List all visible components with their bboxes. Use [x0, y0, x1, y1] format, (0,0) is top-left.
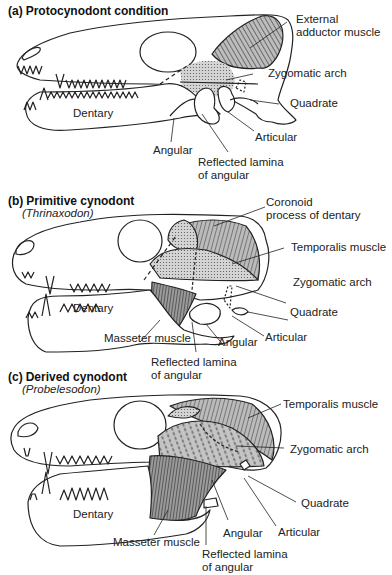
label-temporalis-c: Temporalis muscle — [283, 398, 378, 411]
panel-b-subtitle: (Thrinaxodon) — [22, 207, 94, 220]
panel-c-letter: (c) — [8, 370, 23, 384]
label-dentary-a: Dentary — [73, 107, 113, 120]
label-line: of angular — [151, 369, 237, 382]
label-dentary-c: Dentary — [73, 508, 113, 521]
label-angular-a: Angular — [153, 144, 193, 157]
label-temporalis-b: Temporalis muscle — [291, 241, 386, 254]
panel-a-letter: (a) — [8, 4, 23, 18]
label-line: External — [296, 13, 380, 26]
label-articular-c: Articular — [278, 526, 320, 539]
panel-c-title-text: Derived cynodont — [26, 370, 127, 384]
label-reflected-lamina-a: Reflected lamina of angular — [198, 156, 284, 182]
label-masseter-b: Masseter muscle — [104, 332, 191, 345]
label-line: Reflected lamina — [202, 548, 288, 561]
label-reflected-lamina-b: Reflected lamina of angular — [151, 356, 237, 382]
label-line: of angular — [198, 169, 284, 182]
panel-b-title-text: Primitive cynodont — [26, 194, 134, 208]
label-masseter-c: Masseter muscle — [113, 536, 200, 549]
label-line: Coronoid — [266, 196, 361, 209]
panel-c-drawing — [11, 395, 296, 546]
panel-b-letter: (b) — [8, 194, 23, 208]
label-dentary-b: Dentary — [73, 302, 113, 315]
label-zygomatic-arch-c: Zygomatic arch — [290, 443, 369, 456]
label-reflected-lamina-c: Reflected lamina of angular — [202, 548, 288, 574]
label-quadrate-b: Quadrate — [290, 306, 338, 319]
label-line: of angular — [202, 561, 288, 574]
label-quadrate-c: Quadrate — [301, 497, 349, 510]
label-quadrate-a: Quadrate — [290, 97, 338, 110]
label-line: process of dentary — [266, 209, 361, 222]
label-line: Reflected lamina — [198, 156, 284, 169]
label-coronoid-process: Coronoid process of dentary — [266, 196, 361, 222]
panel-a-title-text: Protocynodont condition — [26, 4, 169, 18]
panel-b-title: (b)Primitive cynodont — [8, 194, 134, 208]
label-articular-a: Articular — [255, 131, 297, 144]
label-line: adductor muscle — [296, 26, 380, 39]
label-angular-c: Angular — [223, 527, 263, 540]
panel-c-title: (c)Derived cynodont — [8, 370, 127, 384]
label-articular-b: Articular — [265, 331, 307, 344]
label-zygomatic-arch-b: Zygomatic arch — [293, 276, 372, 289]
label-angular-b: Angular — [218, 336, 258, 349]
label-external-adductor: External adductor muscle — [296, 13, 380, 39]
label-zygomatic-arch-a: Zygomatic arch — [268, 67, 347, 80]
panel-c-subtitle: (Probelesodon) — [22, 383, 101, 396]
label-line: Reflected lamina — [151, 356, 237, 369]
panel-a-title: (a)Protocynodont condition — [8, 4, 168, 18]
panel-b-drawing — [13, 207, 289, 352]
